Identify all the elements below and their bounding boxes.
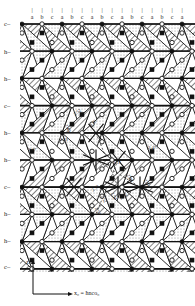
atom-open-circle <box>190 212 194 216</box>
atom-open-circle <box>50 285 54 289</box>
atom-filled-square <box>120 167 124 171</box>
atom-filled-circle <box>20 131 24 135</box>
atom-filled-square <box>80 167 84 171</box>
atom-filled-square <box>40 221 44 225</box>
atom-open-circle <box>100 140 104 144</box>
atom-filled-circle <box>170 104 174 108</box>
atom-open-circle <box>140 221 144 225</box>
atom-filled-circle <box>60 76 64 80</box>
triangle-cell <box>32 269 52 296</box>
column-label-8: c <box>108 14 116 21</box>
column-tick-13: | <box>158 7 166 14</box>
column-tick-10: | <box>128 7 136 14</box>
atom-open-circle <box>80 239 84 243</box>
bond-length-label-6: 2.31 <box>113 160 121 165</box>
column-label-11: c <box>138 14 146 21</box>
atom-filled-circle <box>90 104 94 108</box>
atom-open-circle <box>60 248 64 252</box>
atom-open-circle <box>180 221 184 225</box>
atom-open-circle <box>110 267 114 271</box>
atom-filled-square <box>120 249 124 253</box>
atom-open-circle <box>170 149 174 153</box>
atom-open-circle <box>160 185 164 189</box>
atom-open-circle <box>100 276 104 280</box>
atom-filled-square <box>40 194 44 198</box>
atom-filled-square <box>70 149 74 153</box>
atom-filled-circle <box>50 267 54 271</box>
atom-open-circle <box>140 140 144 144</box>
atom-filled-square <box>190 40 194 44</box>
axis-label-z: z <box>26 259 29 266</box>
bond-length-label-4: 2.47 <box>28 147 36 152</box>
atom-filled-square <box>120 58 124 62</box>
atom-open-circle <box>100 58 104 62</box>
atom-open-circle <box>170 258 174 262</box>
atom-filled-square <box>190 285 194 289</box>
atom-open-circle <box>40 294 44 298</box>
atom-open-circle <box>20 221 24 225</box>
atom-filled-circle <box>180 76 184 80</box>
atom-open-circle <box>120 22 124 26</box>
atom-filled-circle <box>100 185 104 189</box>
atom-filled-square <box>70 231 74 235</box>
atom-filled-square <box>110 122 114 126</box>
axis-label-x0: x₀ = ħnco₀ <box>74 290 99 297</box>
column-label-9: a <box>118 14 126 21</box>
atom-open-circle <box>80 185 84 189</box>
atom-open-circle <box>60 167 64 171</box>
column-tick-4: | <box>68 7 76 14</box>
atom-open-circle <box>100 167 104 171</box>
atom-open-circle <box>130 149 134 153</box>
atom-filled-square <box>160 85 164 89</box>
atom-filled-square <box>190 149 194 153</box>
atom-open-circle <box>180 85 184 89</box>
atom-open-circle <box>90 231 94 235</box>
column-tick-1: | <box>38 7 46 14</box>
atom-open-circle <box>30 267 34 271</box>
atom-open-circle <box>50 122 54 126</box>
atom-filled-square <box>150 176 154 180</box>
atom-open-circle <box>120 131 124 135</box>
layer-label-4: h– <box>4 129 11 136</box>
atom-filled-square <box>30 285 34 289</box>
atom-open-circle <box>150 158 154 162</box>
atom-open-circle <box>140 167 144 171</box>
atom-filled-circle <box>130 212 134 216</box>
atom-open-circle <box>140 85 144 89</box>
atom-open-circle <box>160 22 164 26</box>
atom-open-circle <box>190 158 194 162</box>
atom-filled-square <box>190 258 194 262</box>
atom-open-circle <box>120 239 124 243</box>
triangle-cell <box>22 269 52 296</box>
atom-filled-square <box>150 204 154 208</box>
lattice-body <box>2 22 195 298</box>
atom-filled-square <box>160 276 164 280</box>
atom-open-circle <box>100 248 104 252</box>
column-label-7: b <box>98 14 106 21</box>
atom-filled-square <box>70 122 74 126</box>
column-tick-9: | <box>118 7 126 14</box>
triangle-cell <box>2 269 32 296</box>
atom-filled-circle <box>20 22 24 26</box>
triangle-cell <box>192 269 195 296</box>
atom-filled-square <box>70 285 74 289</box>
atom-open-circle <box>110 49 114 53</box>
atom-filled-square <box>40 167 44 171</box>
atom-open-circle <box>30 158 34 162</box>
atom-filled-square <box>120 221 124 225</box>
atom-filled-square <box>120 140 124 144</box>
layer-label-0: c– <box>4 20 10 27</box>
atom-open-circle <box>160 76 164 80</box>
atom-filled-square <box>110 231 114 235</box>
column-label-15: a <box>178 14 186 21</box>
atom-filled-circle <box>130 104 134 108</box>
atom-filled-square <box>80 31 84 35</box>
atom-open-circle <box>60 85 64 89</box>
atom-filled-square <box>150 285 154 289</box>
atom-open-circle <box>170 176 174 180</box>
atom-open-circle <box>80 76 84 80</box>
layer-label-6: c– <box>4 183 10 190</box>
atom-open-circle <box>130 203 134 207</box>
atom-open-circle <box>60 276 64 280</box>
atom-filled-square <box>190 231 194 235</box>
